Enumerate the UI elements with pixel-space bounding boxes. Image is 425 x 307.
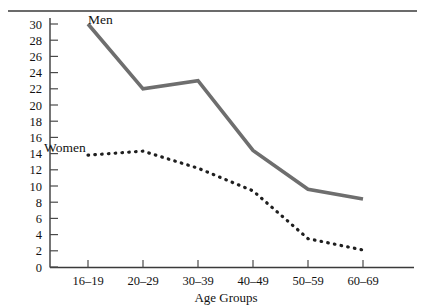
y-tick-label: 4 [36,228,43,242]
series-annotation-men: Men [88,12,113,27]
series-annotation-women: Women [44,140,86,155]
y-tick-label: 2 [36,244,42,258]
series-line-men [88,24,363,199]
chart-container: 30 28 26 24 22 20 18 16 14 12 10 8 6 4 2… [0,0,425,307]
y-tick-label: 12 [30,163,43,177]
series-line-women [88,151,363,250]
y-tick-label: 18 [30,115,43,129]
y-tick-label: 30 [30,18,43,32]
x-tick-label-50-59: 50–59 [292,274,323,288]
x-tick-label-60-69: 60–69 [347,274,378,288]
x-tick-label-30-39: 30–39 [182,274,213,288]
x-tick-label-16-19: 16–19 [72,274,103,288]
y-axis-tick-labels: 30 28 26 24 22 20 18 16 14 12 10 8 6 4 2… [30,18,43,275]
x-axis-ticks [88,260,363,268]
y-tick-label: 22 [30,82,43,96]
y-tick-label: 26 [30,50,43,64]
x-axis-tick-labels: 16–19 20–29 30–39 40–49 50–59 60–69 [72,274,378,288]
x-tick-label-40-49: 40–49 [237,274,268,288]
line-chart: 30 28 26 24 22 20 18 16 14 12 10 8 6 4 2… [0,0,425,307]
y-tick-label: 0 [36,261,42,275]
y-tick-label: 10 [30,180,43,194]
y-tick-label: 6 [36,212,42,226]
x-tick-label-20-29: 20–29 [127,274,158,288]
y-tick-label: 24 [30,66,43,80]
y-tick-label: 14 [30,147,43,161]
y-tick-label: 20 [30,99,43,113]
x-axis-title: Age Groups [194,290,257,305]
y-tick-label: 8 [36,196,42,210]
y-tick-label: 16 [30,131,43,145]
y-tick-label: 28 [30,34,43,48]
